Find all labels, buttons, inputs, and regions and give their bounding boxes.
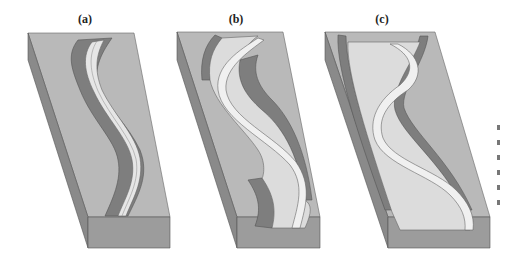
- panel-b-block: [177, 32, 320, 248]
- river-valley-diagram: [0, 0, 506, 264]
- panel-a-label: (a): [65, 12, 105, 27]
- panel-c-block: [325, 32, 490, 248]
- panel-b-label: (b): [216, 12, 256, 27]
- cropped-caption-fragment: [497, 125, 503, 225]
- panel-c-label: (c): [362, 12, 402, 27]
- panel-a-block: [28, 33, 170, 248]
